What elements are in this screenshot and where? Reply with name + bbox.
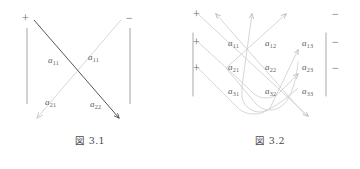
matrix-entry-2-2: a22 (265, 62, 276, 72)
minus-sign-2: − (332, 36, 339, 48)
matrix-entry-1-1: a11 (228, 38, 239, 48)
matrix-entry-2-1: a21 (228, 62, 239, 72)
matrix-entry-1-1: a11 (48, 55, 59, 65)
matrix-entry-2-3: a23 (302, 62, 313, 72)
matrix-entry-2-1: a21 (45, 97, 56, 107)
figure-3-2-canvas: + + + − − − a11 a12 a13 a21 a22 a23 a31 … (180, 0, 360, 132)
figure-sheet: + − a11 a11 a21 a22 図 3.1 (0, 0, 360, 169)
figure-3-2-caption: 図 3.2 (180, 133, 360, 147)
plus-sign-3: + (193, 62, 200, 74)
plus-sign-1: + (193, 8, 200, 20)
plus-sign-2: + (193, 36, 200, 48)
minus-sign: − (126, 12, 133, 24)
matrix-entry-3-2: a32 (265, 86, 276, 96)
matrix-entry-2-2: a22 (90, 99, 101, 109)
matrix-entry-1-2: a12 (265, 38, 276, 48)
figure-3-2: + + + − − − a11 a12 a13 a21 a22 a23 a31 … (180, 0, 360, 169)
figure-3-1-caption: 図 3.1 (0, 133, 180, 147)
matrix-entry-1-2: a11 (88, 52, 99, 62)
minus-sign-3: − (332, 62, 339, 74)
matrix-entry-3-3: a33 (302, 86, 313, 96)
matrix-entry-1-3: a13 (302, 38, 313, 48)
minus-sign-1: − (332, 8, 339, 20)
figure-3-1-canvas: + − a11 a11 a21 a22 (0, 0, 180, 132)
figure-3-1: + − a11 a11 a21 a22 図 3.1 (0, 0, 180, 169)
plus-sign: + (22, 12, 29, 24)
matrix-entry-3-1: a31 (228, 86, 239, 96)
